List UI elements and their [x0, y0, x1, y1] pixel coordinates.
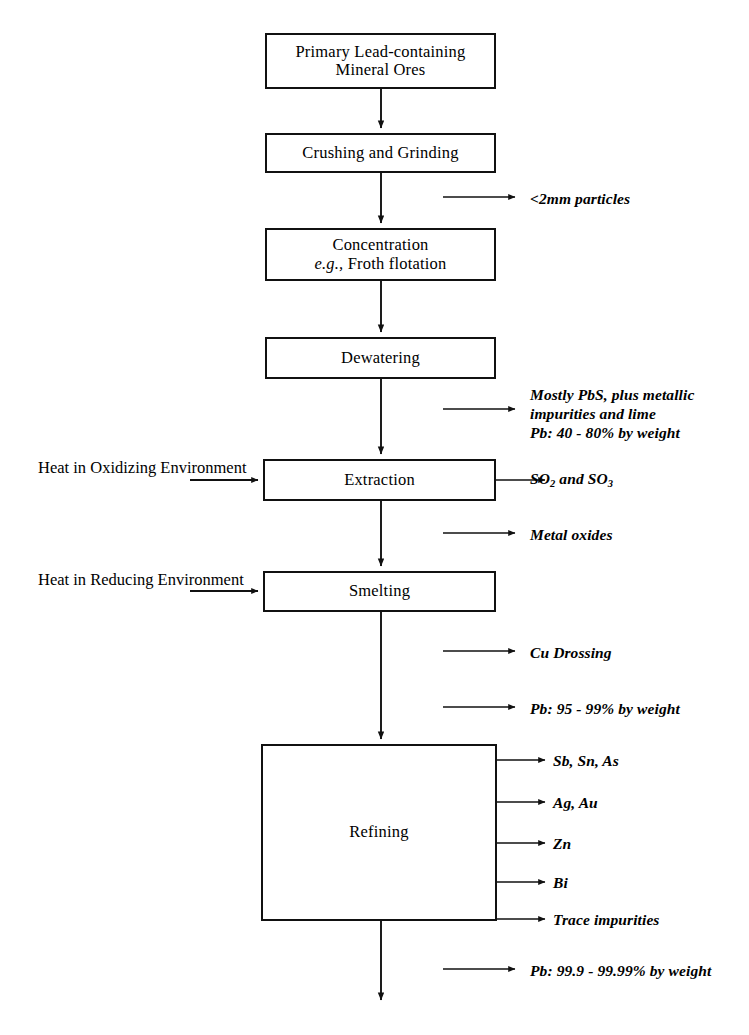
- node-primary-ore-line-1: Primary Lead-containing: [295, 43, 465, 61]
- node-crushing-grinding-label: Crushing and Grinding: [302, 144, 458, 162]
- label-sb-sn-as-text: Sb, Sn, As: [553, 752, 619, 771]
- label-sulfur-oxides-text: SO2 and SO3: [530, 470, 613, 490]
- node-concentration-line-2: e.g., Froth flotation: [314, 255, 446, 273]
- node-concentration-line-1: Concentration: [332, 236, 428, 254]
- node-refining-label: Refining: [349, 823, 408, 841]
- label-feed-composition-line-3: Pb: 40 - 80% by weight: [530, 424, 694, 443]
- process-flow-diagram: Primary Lead-containing Mineral Ores Cru…: [0, 0, 749, 1035]
- node-smelting[interactable]: Smelting: [263, 571, 496, 612]
- label-zn-text: Zn: [553, 835, 571, 854]
- label-pb-95-99: Pb: 95 - 99% by weight: [530, 700, 680, 719]
- label-ag-au: Ag, Au: [553, 794, 598, 813]
- node-smelting-label: Smelting: [349, 582, 410, 600]
- node-refining[interactable]: Refining: [261, 744, 497, 921]
- label-cu-drossing: Cu Drossing: [530, 644, 612, 663]
- label-sulfur-oxides: SO2 and SO3: [530, 470, 613, 490]
- label-cu-drossing-text: Cu Drossing: [530, 644, 612, 663]
- label-particles: <2mm particles: [530, 190, 630, 209]
- label-heat-reducing-line-1: Heat in Reducing: [38, 570, 153, 589]
- label-trace-impurities: Trace impurities: [553, 911, 660, 930]
- node-primary-ore[interactable]: Primary Lead-containing Mineral Ores: [265, 33, 496, 89]
- label-sb-sn-as: Sb, Sn, As: [553, 752, 619, 771]
- label-metal-oxides-text: Metal oxides: [530, 526, 613, 545]
- label-feed-composition: Mostly PbS, plus metallic impurities and…: [530, 386, 694, 443]
- node-primary-ore-line-2: Mineral Ores: [336, 61, 426, 79]
- label-pb-95-99-text: Pb: 95 - 99% by weight: [530, 700, 680, 719]
- page-caption-partial: [12, 1022, 732, 1035]
- label-bi-text: Bi: [553, 874, 568, 893]
- label-particles-text: <2mm particles: [530, 190, 630, 209]
- label-feed-composition-line-1: Mostly PbS, plus metallic: [530, 386, 694, 405]
- node-dewatering[interactable]: Dewatering: [265, 337, 496, 379]
- label-trace-impurities-text: Trace impurities: [553, 911, 660, 930]
- label-bi: Bi: [553, 874, 568, 893]
- node-crushing-grinding[interactable]: Crushing and Grinding: [265, 133, 496, 173]
- label-feed-composition-line-2: impurities and lime: [530, 405, 694, 424]
- node-dewatering-label: Dewatering: [341, 349, 420, 367]
- label-zn: Zn: [553, 835, 571, 854]
- node-extraction[interactable]: Extraction: [263, 459, 496, 501]
- label-heat-reducing-line-2: Environment: [158, 570, 244, 589]
- label-heat-oxidizing: Heat in Oxidizing Environment: [38, 459, 213, 478]
- label-heat-oxidizing-line-1: Heat in Oxidizing: [38, 458, 156, 477]
- label-metal-oxides: Metal oxides: [530, 526, 613, 545]
- label-heat-oxidizing-line-2: Environment: [160, 458, 246, 477]
- label-ag-au-text: Ag, Au: [553, 794, 598, 813]
- node-extraction-label: Extraction: [344, 471, 415, 489]
- label-pb-99-9-text: Pb: 99.9 - 99.99% by weight: [530, 962, 711, 981]
- node-concentration[interactable]: Concentration e.g., Froth flotation: [265, 228, 496, 281]
- label-heat-reducing: Heat in Reducing Environment: [38, 571, 213, 590]
- label-pb-99-9: Pb: 99.9 - 99.99% by weight: [530, 962, 711, 981]
